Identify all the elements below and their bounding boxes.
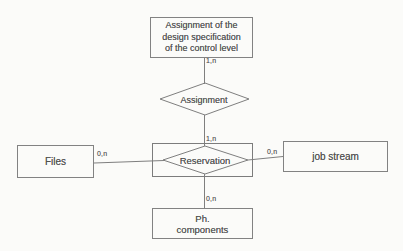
cardinality-label-files-reservation: 0,n xyxy=(97,150,107,157)
entity-label-ph-components-line1: Ph. xyxy=(195,213,209,224)
entity-label-job-stream: job stream xyxy=(312,151,359,162)
er-diagram-canvas: Assignment of the design specification o… xyxy=(0,0,403,251)
connector-reservation-to-job-stream xyxy=(248,157,283,161)
entity-box-files: Files xyxy=(17,145,94,178)
entity-box-control-level: Assignment of the design specification o… xyxy=(150,17,253,58)
entity-box-ph-components: Ph. components xyxy=(152,208,253,239)
cardinality-label-control-assignment: 1,n xyxy=(206,57,216,64)
cardinality-label-reservation-ph-components: 0,n xyxy=(206,195,216,202)
cardinality-label-reservation-job-stream: 0,n xyxy=(267,148,277,155)
entity-label-ph-components-line2: components xyxy=(177,224,229,235)
entity-label-control-level-line1: Assignment of the xyxy=(165,20,237,32)
relationship-label-assignment: Assignment xyxy=(180,95,227,105)
entity-label-control-level-line2: design specification xyxy=(162,32,241,44)
entity-label-control-level-line3: of the control level xyxy=(165,43,238,55)
entity-box-job-stream: job stream xyxy=(283,141,388,172)
relationship-label-reservation: Reservation xyxy=(180,155,231,166)
cardinality-label-assignment-reservation: 1,n xyxy=(206,135,216,142)
entity-label-files: Files xyxy=(45,156,66,167)
